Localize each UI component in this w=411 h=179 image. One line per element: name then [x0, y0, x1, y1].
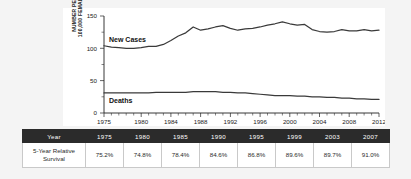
- table-cell-survival-1999: 89.6%: [276, 143, 314, 168]
- y-tick-50: 50: [90, 77, 97, 84]
- table-header-1975: 1975: [86, 130, 124, 143]
- table-cell-survival-1980: 74.8%: [124, 143, 162, 168]
- y-tick-0: 0: [94, 109, 98, 116]
- table-header-row: Year 1975 1980 1985 1990 1995 1999 2003 …: [23, 130, 390, 143]
- table-row-label-line1: 5-Year Relative: [33, 147, 75, 154]
- x-tick-1980: 1980: [134, 118, 148, 125]
- x-tick-1984: 1984: [164, 118, 178, 125]
- x-tick-2008: 2008: [342, 118, 356, 125]
- figure-container: NUMBER PER 100,000 FEMALES 150 100 50 0: [0, 0, 411, 179]
- table-header-1980: 1980: [124, 130, 162, 143]
- table-header-2003: 2003: [314, 130, 352, 143]
- y-tick-150: 150: [87, 12, 98, 19]
- table-cell-survival-1995: 86.8%: [238, 143, 276, 168]
- table-header-1999: 1999: [276, 130, 314, 143]
- x-tick-1992: 1992: [224, 118, 238, 125]
- x-tick-2012: 2012: [372, 118, 385, 125]
- table-header-1985: 1985: [162, 130, 200, 143]
- table-header-1990: 1990: [200, 130, 238, 143]
- survival-data-table: Year 1975 1980 1985 1990 1995 1999 2003 …: [22, 129, 390, 168]
- chart-panel: NUMBER PER 100,000 FEMALES 150 100 50 0: [63, 8, 385, 126]
- table-row: 5-Year Relative Survival 75.2% 74.8% 78.…: [23, 143, 390, 168]
- x-tick-1988: 1988: [194, 118, 208, 125]
- table-header-year: Year: [23, 130, 86, 143]
- x-tick-1996: 1996: [253, 118, 267, 125]
- y-tick-100: 100: [87, 45, 98, 52]
- x-tick-2004: 2004: [313, 118, 327, 125]
- table-row-label-line2: Survival: [43, 155, 65, 162]
- series-label-new-cases: New Cases: [109, 36, 146, 43]
- table-cell-survival-1975: 75.2%: [86, 143, 124, 168]
- x-tick-group: 1975 1980 1984 1988 1992 1996 2000 2004 …: [97, 113, 385, 125]
- table-cell-survival-2003: 89.7%: [314, 143, 352, 168]
- table-cell-survival-1985: 78.4%: [162, 143, 200, 168]
- table-row-label: 5-Year Relative Survival: [23, 143, 86, 168]
- table-cell-survival-1990: 84.6%: [200, 143, 238, 168]
- table-header-1995: 1995: [238, 130, 276, 143]
- x-tick-2000: 2000: [283, 118, 297, 125]
- x-tick-1975: 1975: [97, 118, 111, 125]
- series-label-deaths: Deaths: [109, 97, 132, 104]
- y-tick-group: 150 100 50 0: [87, 12, 104, 116]
- line-chart-svg: 150 100 50 0: [63, 8, 385, 126]
- table-cell-survival-2007: 91.0%: [352, 143, 390, 168]
- series-line-deaths: [104, 92, 379, 100]
- table-header-2007: 2007: [352, 130, 390, 143]
